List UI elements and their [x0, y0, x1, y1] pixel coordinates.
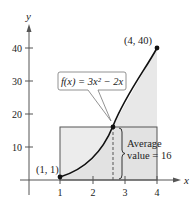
y-tick-label: 20 [12, 109, 22, 120]
x-axis-arrow-icon [173, 178, 181, 183]
point-label-1-1: (1, 1) [36, 164, 59, 176]
x-tick-label: 1 [58, 187, 63, 198]
x-tick-label: 2 [91, 187, 96, 198]
point-label-4-40: (4, 40) [124, 35, 152, 47]
average-label-line1: Average [127, 138, 162, 149]
intersection-point [111, 125, 116, 130]
x-tick-label: 3 [123, 187, 128, 198]
y-axis-arrow-icon [27, 24, 32, 32]
average-label-line2: value = 16 [127, 150, 171, 161]
point-1-1 [58, 175, 63, 180]
y-tick-label: 40 [12, 43, 22, 54]
x-tick-label: 4 [155, 187, 160, 198]
y-tick-label: 30 [12, 76, 22, 87]
chart: 40 30 20 10 1 2 3 4 y x (1, 1) (4, 40) f… [0, 0, 194, 207]
function-label: f(x) = 3x² − 2x [61, 76, 124, 88]
x-axis-label: x [183, 174, 189, 186]
y-axis-label: y [25, 10, 31, 22]
point-4-40 [155, 46, 160, 51]
y-tick-label: 10 [12, 142, 22, 153]
